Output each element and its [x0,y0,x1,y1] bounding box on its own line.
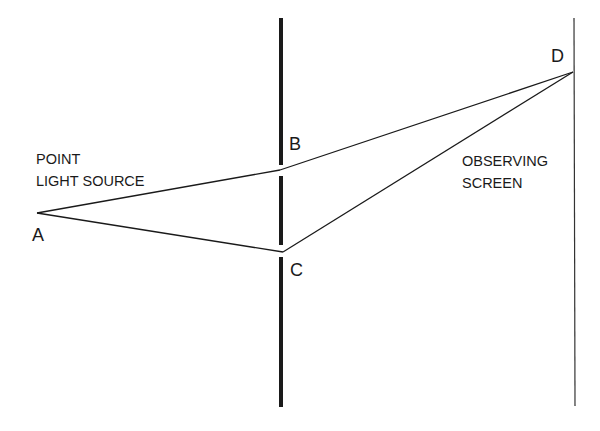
screen-label-line1: OBSERVING [462,153,548,169]
double-slit-diagram: A B C D POINT LIGHT SOURCE OBSERVING SCR… [0,0,600,431]
screen-label-line2: SCREEN [462,175,522,191]
point-label-d: D [551,46,564,66]
point-label-b: B [289,134,301,154]
point-label-c: C [290,260,303,280]
point-label-a: A [32,225,44,245]
observing-screen-line [574,18,575,406]
ray-a-to-c [37,213,283,252]
light-source-label-line1: POINT [36,151,80,167]
light-source-label-line2: LIGHT SOURCE [36,173,145,189]
